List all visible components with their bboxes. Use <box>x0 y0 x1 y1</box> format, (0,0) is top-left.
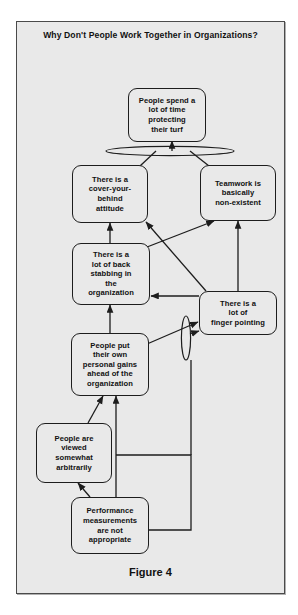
node-back-stabbing[interactable]: There is a lot of back stabbing in the o… <box>72 243 150 305</box>
figure-title: Why Don't People Work Together in Organi… <box>16 30 285 42</box>
node-viewed-arbitrarily-label: People are viewed somewhat arbitrarily <box>55 434 94 472</box>
node-viewed-arbitrarily[interactable]: People are viewed somewhat arbitrarily <box>36 423 112 483</box>
figure-caption: Figure 4 <box>16 566 285 578</box>
node-teamwork[interactable]: Teamwork is basically non-existent <box>200 165 276 221</box>
node-cover-your-behind[interactable]: There is a cover-your- behind attitude <box>72 165 148 223</box>
node-back-stabbing-label: There is a lot of back stabbing in the o… <box>88 250 134 298</box>
node-performance-measurements-label: Performance measurements are not appropr… <box>83 506 137 544</box>
node-turf-label: People spend a lot of time protecting th… <box>139 96 195 134</box>
node-teamwork-label: Teamwork is basically non-existent <box>215 179 261 208</box>
node-personal-gains[interactable]: People put their own personal gains ahea… <box>71 333 149 396</box>
node-performance-measurements[interactable]: Performance measurements are not appropr… <box>71 497 149 554</box>
node-finger-pointing-label: There is a lot of finger pointing <box>211 299 265 328</box>
figure-page: Why Don't People Work Together in Organi… <box>0 0 298 615</box>
node-cover-your-behind-label: There is a cover-your- behind attitude <box>89 175 131 213</box>
node-personal-gains-label: People put their own personal gains ahea… <box>83 341 137 389</box>
node-turf[interactable]: People spend a lot of time protecting th… <box>128 88 206 142</box>
node-finger-pointing[interactable]: There is a lot of finger pointing <box>199 291 277 335</box>
